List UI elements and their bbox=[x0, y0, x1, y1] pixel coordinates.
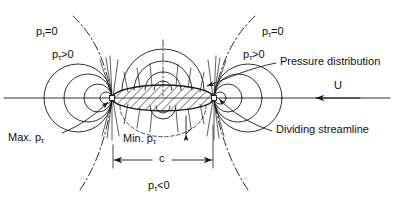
leader-min-pt bbox=[186, 116, 192, 134]
leader-max-pt bbox=[62, 102, 108, 133]
label-pt-neg-bottom: pτ<0 bbox=[148, 176, 170, 193]
relation: =0 bbox=[45, 25, 58, 37]
airfoil-body bbox=[112, 85, 214, 111]
label-max-pt: Max. pτ bbox=[8, 128, 44, 145]
relation: >0 bbox=[61, 48, 74, 60]
label-chord: c bbox=[159, 153, 165, 164]
relation: <0 bbox=[157, 179, 170, 191]
label-freestream-velocity: U bbox=[334, 80, 342, 91]
label-min-pt: Min. pτ bbox=[123, 129, 156, 146]
min-prefix: Min. bbox=[123, 132, 147, 144]
tau-subscript: τ bbox=[153, 137, 156, 146]
label-pt-zero-left: pτ=0 bbox=[36, 22, 58, 39]
tau-subscript: τ bbox=[41, 136, 44, 145]
label-pt-zero-right: pτ=0 bbox=[262, 22, 284, 39]
label-pt-pos-left: pτ>0 bbox=[52, 45, 74, 62]
max-prefix: Max. bbox=[8, 131, 35, 143]
figure-canvas: pτ=0 pτ>0 pτ=0 pτ>0 pτ<0 Max. pτ Min. pτ… bbox=[0, 0, 394, 200]
pressure-distribution-diagram bbox=[0, 0, 394, 200]
leader-dividing-streamline bbox=[219, 99, 272, 131]
label-dividing-streamline: Dividing streamline bbox=[276, 124, 369, 135]
label-pressure-distribution: Pressure distribution bbox=[280, 56, 380, 67]
relation: >0 bbox=[252, 48, 265, 60]
label-pt-pos-right: pτ>0 bbox=[243, 45, 265, 62]
relation: =0 bbox=[271, 25, 284, 37]
